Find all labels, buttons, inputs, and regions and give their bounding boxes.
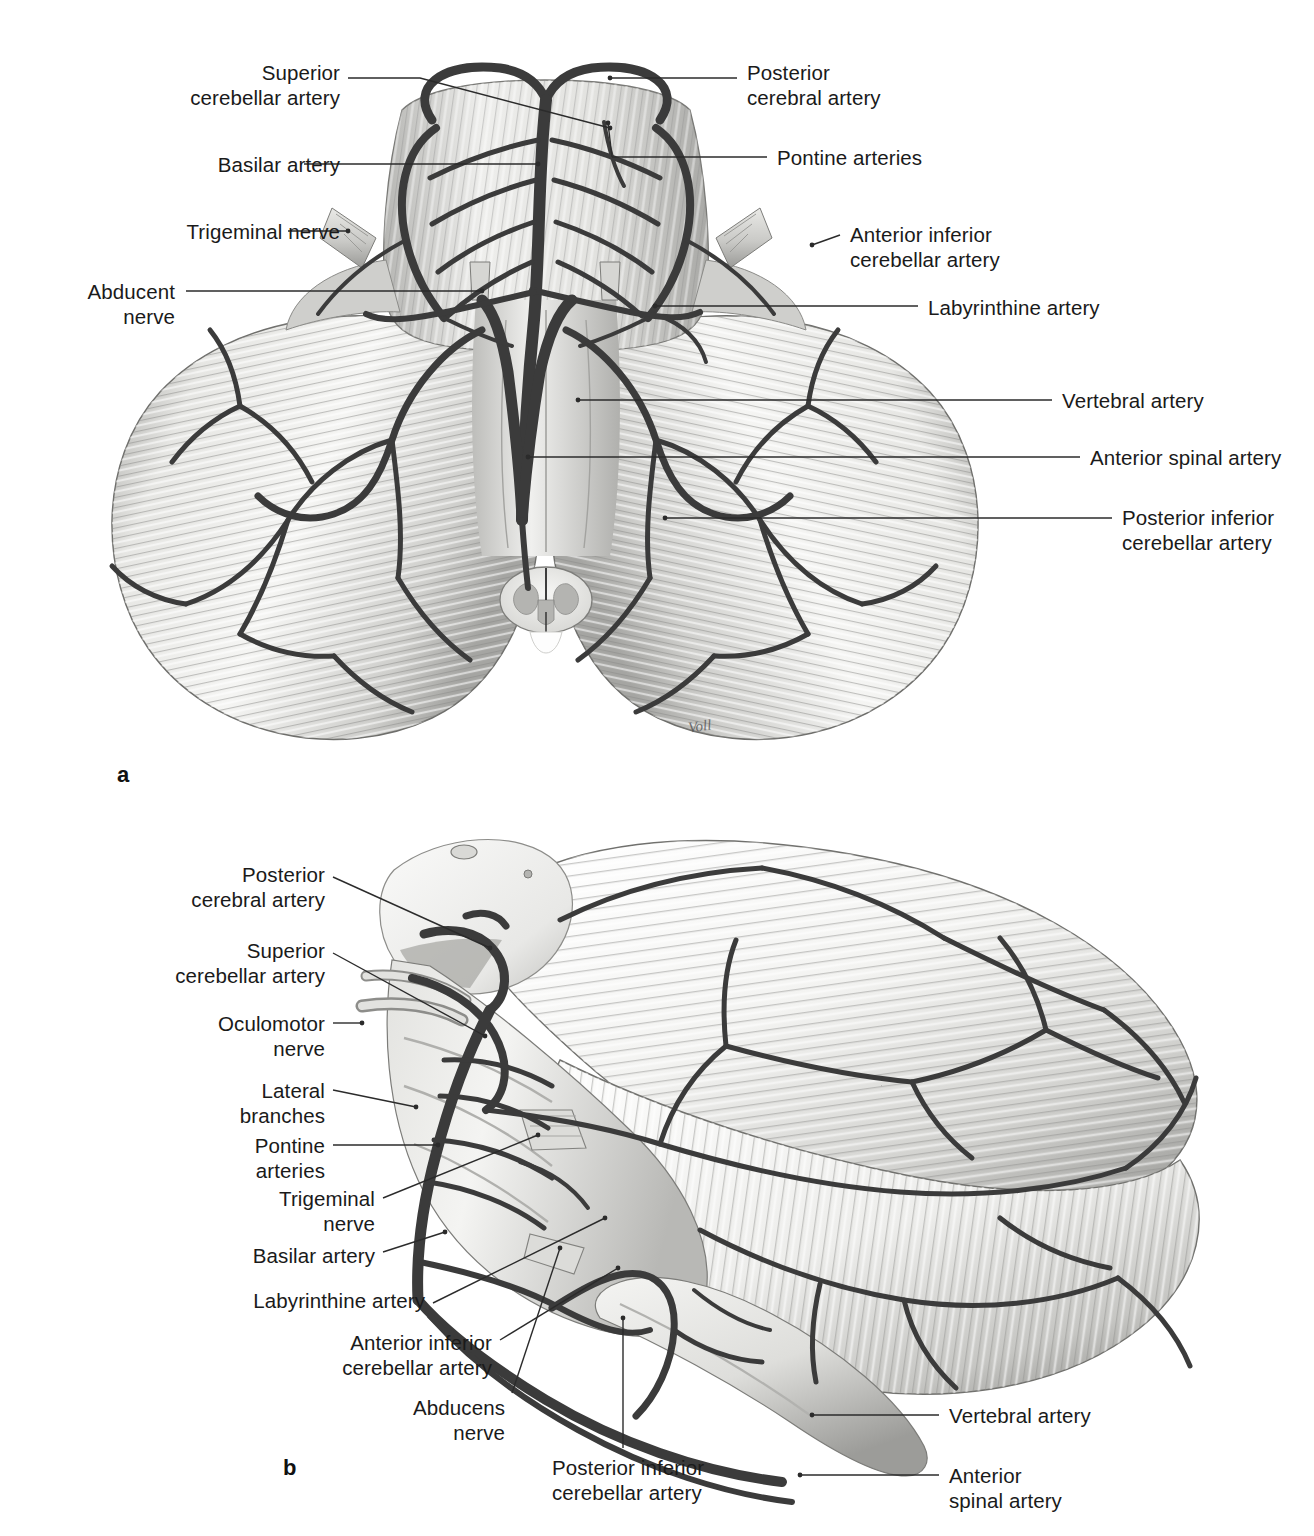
label-abducens-nerve-b: Abducens nerve [390,1395,505,1445]
label-posterior-cerebral-artery-a: Posterior cerebral artery [747,60,967,110]
label-superior-cerebellar-artery-a: Superior cerebellar artery [165,60,340,110]
label-pontine-arteries-a: Pontine arteries [777,145,997,170]
label-abducent-nerve-a: Abducent nerve [55,279,175,329]
trigeminal-nerve-root-right [716,208,772,268]
label-posterior-inferior-cerebellar-artery-a: Posterior inferior cerebellar artery [1122,505,1314,555]
figure-b-panel: Posterior cerebral artery Superior cereb… [0,810,1314,1536]
figure-marker-a: a [117,762,129,788]
artist-signature: Voll [687,717,712,737]
label-trigeminal-nerve-b: Trigeminal nerve [228,1186,375,1236]
label-posterior-cerebral-artery-b: Posterior cerebral artery [170,862,325,912]
label-anterior-inferior-cerebellar-artery-b: Anterior inferior cerebellar artery [292,1330,492,1380]
label-trigeminal-nerve-a: Trigeminal nerve [125,219,340,244]
label-superior-cerebellar-artery-b: Superior cerebellar artery [150,938,325,988]
label-lateral-branches-b: Lateral branches [207,1078,325,1128]
label-labyrinthine-artery-a: Labyrinthine artery [928,295,1188,320]
label-basilar-artery-a: Basilar artery [180,152,340,177]
label-labyrinthine-artery-b: Labyrinthine artery [222,1288,425,1313]
label-vertebral-artery-a: Vertebral artery [1062,388,1292,413]
label-anterior-inferior-cerebellar-artery-a: Anterior inferior cerebellar artery [850,222,1090,272]
label-pontine-arteries-b: Pontine arteries [210,1133,325,1183]
label-basilar-artery-b: Basilar artery [228,1243,375,1268]
label-oculomotor-nerve-b: Oculomotor nerve [190,1011,325,1061]
figure-a-panel: Voll Superior cerebellar artery Basilar … [0,0,1314,810]
spinal-cord-cross-section [500,567,592,653]
figure-marker-b: b [283,1455,296,1481]
label-vertebral-artery-b: Vertebral artery [949,1403,1159,1428]
label-anterior-spinal-artery-b: Anterior spinal artery [949,1463,1129,1513]
label-anterior-spinal-artery-a: Anterior spinal artery [1090,445,1314,470]
label-posterior-inferior-cerebellar-artery-b: Posterior inferior cerebellar artery [552,1455,762,1505]
